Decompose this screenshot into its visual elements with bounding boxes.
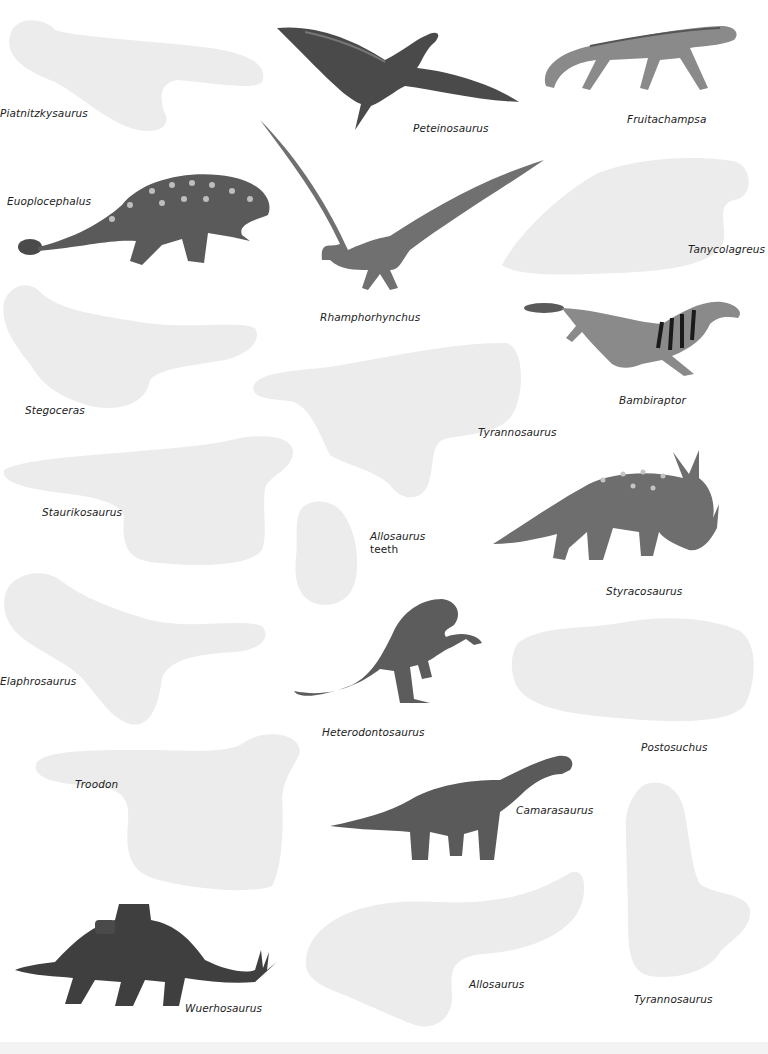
ornithopod-icon	[292, 595, 487, 705]
crocodylomorph-icon	[540, 18, 740, 98]
sticker-outline-icon	[292, 498, 360, 608]
label-troodon: Troodon	[75, 778, 118, 790]
sticker-space-tyrannosaurus-bottom[interactable]	[620, 780, 752, 980]
label-tanycolagreus: Tanycolagreus	[688, 243, 765, 255]
pterosaur-icon	[275, 20, 520, 132]
sticker-outline-icon	[0, 280, 260, 410]
label-piatnitzkysaurus: Piatnitzkysaurus	[0, 107, 88, 119]
stegosaur-icon	[15, 900, 277, 1010]
illustration-styracosaurus	[493, 448, 723, 568]
label-staurikosaurus: Staurikosaurus	[42, 506, 122, 518]
illustration-bambiraptor	[522, 298, 744, 378]
sticker-space-allosaurus[interactable]	[302, 870, 587, 1030]
sticker-space-allosaurus-teeth[interactable]	[292, 498, 360, 608]
label-tyrannosaurus-bottom: Tyrannosaurus	[634, 993, 713, 1005]
sticker-outline-icon	[32, 728, 304, 893]
label-camarasaurus: Camarasaurus	[516, 804, 593, 816]
illustration-peteinosaurus	[275, 20, 520, 132]
label-allosaurus-bottom: Allosaurus	[469, 978, 524, 990]
sticker-outline-icon	[510, 615, 755, 725]
sticker-space-troodon[interactable]	[32, 728, 304, 893]
label-allosaurus-teeth-line1: Allosaurus	[370, 530, 425, 542]
sticker-space-staurikosaurus[interactable]	[0, 432, 296, 567]
label-styracosaurus: Styracosaurus	[606, 585, 682, 597]
illustration-fruitachampsa	[540, 18, 740, 98]
label-stegoceras: Stegoceras	[25, 404, 85, 416]
ankylosaur-icon	[12, 165, 277, 270]
raptor-icon	[522, 298, 744, 378]
sticker-outline-icon	[0, 432, 296, 567]
sticker-space-stegoceras[interactable]	[0, 280, 260, 410]
sticker-space-postosuchus[interactable]	[510, 615, 755, 725]
illustration-rhamphorhynchus	[260, 120, 545, 295]
illustration-heterodontosaurus	[292, 595, 487, 705]
label-euoplocephalus: Euoplocephalus	[7, 195, 91, 207]
label-postosuchus: Postosuchus	[641, 741, 708, 753]
label-bambiraptor: Bambiraptor	[619, 394, 686, 406]
illustration-euoplocephalus	[12, 165, 277, 270]
label-heterodontosaurus: Heterodontosaurus	[322, 726, 425, 738]
label-allosaurus-teeth: Allosaurus teeth	[370, 530, 425, 556]
label-tyrannosaurus-mid: Tyrannosaurus	[478, 426, 557, 438]
sticker-page: Piatnitzkysaurus Tanycolagreus Stegocera…	[0, 0, 768, 1054]
sticker-space-elaphrosaurus[interactable]	[0, 568, 270, 728]
page-bottom-edge	[0, 1042, 768, 1054]
sticker-outline-icon	[302, 870, 587, 1030]
label-wuerhosaurus: Wuerhosaurus	[185, 1002, 262, 1014]
label-elaphrosaurus: Elaphrosaurus	[0, 675, 76, 687]
pterosaur-icon	[260, 120, 545, 295]
label-rhamphorhynchus: Rhamphorhynchus	[320, 311, 420, 323]
illustration-wuerhosaurus	[15, 900, 277, 1010]
label-fruitachampsa: Fruitachampsa	[627, 113, 706, 125]
label-allosaurus-teeth-line2: teeth	[370, 543, 398, 555]
sticker-outline-icon	[620, 780, 752, 980]
sticker-outline-icon	[0, 568, 270, 728]
ceratopsian-icon	[493, 448, 723, 568]
